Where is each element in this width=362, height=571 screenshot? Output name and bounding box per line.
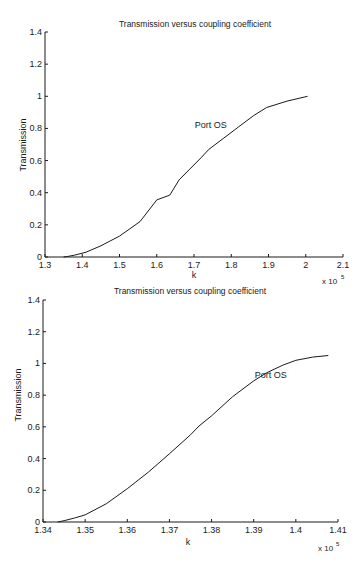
y-tick-labels: 00.20.40.60.811.21.4 <box>29 27 42 262</box>
chart-title: Transmission versus coupling coefficient <box>114 286 267 296</box>
y-tick-label: 1.4 <box>27 295 40 305</box>
y-axis-label: Transmission <box>18 118 28 171</box>
x-tick-label: 2.1 <box>337 260 350 270</box>
x-multiplier-exponent: 5 <box>336 541 340 547</box>
axes <box>45 32 343 257</box>
x-tick-label: 1.37 <box>161 525 179 535</box>
x-multiplier-exponent: 5 <box>341 274 345 280</box>
y-tick-label: 0.2 <box>29 220 42 230</box>
figure: Transmission versus coupling coefficient… <box>0 0 362 571</box>
x-tick-labels: 1.341.351.361.371.381.391.41.41 <box>34 525 347 535</box>
y-tick-label: 0.8 <box>27 390 40 400</box>
y-tick-label: 0.4 <box>27 454 40 464</box>
x-tick-label: 1.4 <box>290 525 303 535</box>
x-axis-label: k <box>186 537 191 547</box>
x-tick-label: 2 <box>303 260 308 270</box>
y-tick-label: 0.6 <box>29 156 42 166</box>
y-tick-label: 0.8 <box>29 123 42 133</box>
chart-bottom: Transmission versus coupling coefficient… <box>13 286 347 553</box>
x-tick-label: 1.41 <box>329 525 347 535</box>
x-tick-label: 1.8 <box>225 260 238 270</box>
curve-annotation: Port OS <box>255 370 287 380</box>
x-tick-label: 1.9 <box>262 260 275 270</box>
x-tick-label: 1.38 <box>203 525 221 535</box>
y-tick-label: 1.2 <box>29 59 42 69</box>
chart-title: Transmission versus coupling coefficient <box>119 19 272 29</box>
y-axis-label: Transmission <box>13 368 23 421</box>
x-multiplier: x 10 <box>322 277 338 286</box>
x-multiplier: x 10 <box>318 544 334 553</box>
series-line-port-os <box>64 96 308 257</box>
y-tick-label: 1 <box>35 358 40 368</box>
x-tick-label: 1.6 <box>150 260 163 270</box>
y-tick-label: 0.2 <box>27 485 40 495</box>
y-tick-label: 1.2 <box>27 327 40 337</box>
x-tick-label: 1.3 <box>39 260 52 270</box>
x-tick-label: 1.39 <box>245 525 263 535</box>
x-tick-label: 1.4 <box>76 260 89 270</box>
x-tick-label: 1.34 <box>34 525 52 535</box>
x-tick-label: 1.36 <box>119 525 137 535</box>
curve-annotation: Port OS <box>195 120 227 130</box>
y-tick-label: 0.6 <box>27 422 40 432</box>
x-tick-label: 1.35 <box>76 525 94 535</box>
x-axis-label: k <box>192 270 197 280</box>
y-tick-labels: 00.20.40.60.811.21.4 <box>27 295 40 527</box>
x-tick-labels: 1.31.41.51.61.71.81.922.1 <box>39 260 350 270</box>
x-tick-label: 1.5 <box>113 260 126 270</box>
series-line-port-os <box>58 356 329 523</box>
axes <box>43 300 338 522</box>
y-tick-label: 0.4 <box>29 188 42 198</box>
x-tick-label: 1.7 <box>188 260 201 270</box>
chart-top: Transmission versus coupling coefficient… <box>18 19 349 286</box>
chart-canvas: Transmission versus coupling coefficient… <box>0 0 362 571</box>
y-tick-label: 1 <box>37 91 42 101</box>
y-tick-label: 1.4 <box>29 27 42 37</box>
